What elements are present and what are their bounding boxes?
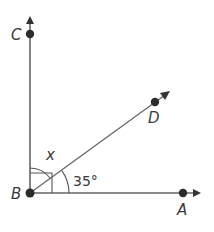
point-a — [179, 189, 187, 197]
angle-label-x: x — [45, 146, 55, 164]
label-c: C — [11, 26, 22, 44]
point-c — [26, 30, 34, 38]
arrow-diagonal-icon — [160, 91, 170, 100]
angle-arc-35 — [62, 171, 69, 193]
angle-diagram: C B D A x 35° — [0, 0, 214, 232]
arrow-right-icon — [193, 189, 201, 197]
point-b — [26, 189, 35, 198]
arrow-up-icon — [26, 16, 34, 24]
point-d — [151, 98, 159, 106]
label-d: D — [148, 109, 160, 127]
label-a: A — [176, 201, 187, 219]
label-b: B — [11, 185, 21, 203]
angle-label-35: 35° — [73, 173, 98, 189]
